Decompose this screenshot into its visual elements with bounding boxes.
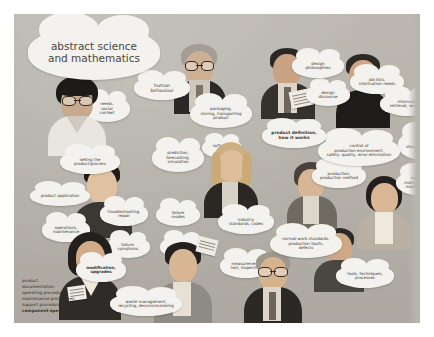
cloud-label: waste management, recycling, decommissio…: [118, 300, 174, 309]
cloud-production-method: production, production method: [312, 164, 366, 188]
cloud-label: normal work standards, production faults…: [282, 237, 329, 250]
cloud-label: prediction, forecasting, simulation: [166, 151, 190, 164]
cloud-waste-management: waste management, recycling, decommissio…: [110, 292, 182, 316]
head: [371, 183, 398, 214]
cloud-selling-product: selling the product/process: [60, 150, 120, 174]
documentation-line-emphasis: component specifications: [22, 308, 82, 314]
cloud-label: control of production environment, safet…: [327, 144, 391, 157]
cloud-abstract-science: abstract science and mathematics: [28, 26, 160, 80]
poster-board: abstract science and mathematics human b…: [14, 14, 420, 323]
cloud-design-discourse: design discourse: [306, 84, 350, 106]
cloud-prediction-forecasting: prediction, forecasting, simulation: [152, 144, 204, 172]
cloud-label: failure modes: [171, 211, 184, 220]
hair-side-right: [242, 152, 252, 186]
cloud-label: production, production method: [320, 172, 358, 181]
cloud-label: design discourse: [318, 91, 337, 100]
cloud-label: logistics, process storage, transport in…: [406, 136, 420, 154]
shirt: [303, 196, 319, 224]
cloud-label: selling the product/process: [74, 158, 106, 167]
glasses-icon: [258, 267, 288, 276]
cloud-label: product application: [41, 194, 80, 198]
cloud-label: tools, techniques, processes: [347, 272, 383, 281]
glasses-icon: [62, 96, 93, 105]
cloud-label: troubleshooting, repair: [108, 210, 141, 219]
cloud-label: design philosophies: [305, 62, 330, 71]
documentation-list: product documentation: operating procedu…: [22, 278, 82, 315]
cloud-human-behaviour: human behaviour: [134, 76, 190, 100]
cloud-label: information retrieval, searching: [390, 100, 420, 109]
shirt: [375, 212, 393, 244]
glasses-icon: [185, 61, 214, 70]
cloud-label: human behaviour: [150, 83, 173, 93]
cloud-label: packaging, storing, transporting product: [200, 107, 241, 120]
cloud-packaging-storing: packaging, storing, transporting product: [190, 100, 252, 128]
hair-side-left: [211, 152, 221, 186]
cloud-modification-upgrades: modification, upgrades: [76, 258, 126, 282]
cloud-label: product definition, how it works: [271, 131, 316, 141]
cloud-failure-modes: failure modes: [156, 204, 200, 226]
cloud-troubleshooting: troubleshooting, repair: [100, 202, 148, 226]
hair-fringe: [59, 82, 95, 96]
cloud-normal-work-standards: normal work standards, production faults…: [270, 230, 342, 258]
cloud-control-production: control of production environment, safet…: [318, 136, 400, 166]
knowledge-map-poster: abstract science and mathematics human b…: [0, 0, 434, 337]
cloud-design-philosophies: design philosophies: [292, 54, 344, 78]
cloud-tools-techniques: tools, techniques, processes: [336, 264, 394, 288]
head: [218, 150, 245, 182]
tie: [269, 292, 276, 320]
cloud-logistics-storage: logistics, process storage, transport in…: [398, 130, 420, 160]
person-figure: [48, 76, 108, 154]
cloud-label: components, material properties, models …: [404, 176, 420, 189]
cloud-product-application: product application: [30, 186, 90, 206]
cloud-label bold: modification, upgrades: [86, 266, 116, 275]
cloud-label: industry standards, codes: [229, 218, 263, 227]
person-figure: [244, 252, 302, 323]
cloud-label: job lists, information needs: [359, 78, 395, 87]
head: [169, 249, 197, 282]
cloud-product-definition: product definition, how it works: [262, 124, 326, 148]
cloud-label: abstract science and mathematics: [48, 41, 140, 65]
cloud-industry-standards: industry standards, codes: [218, 210, 274, 234]
